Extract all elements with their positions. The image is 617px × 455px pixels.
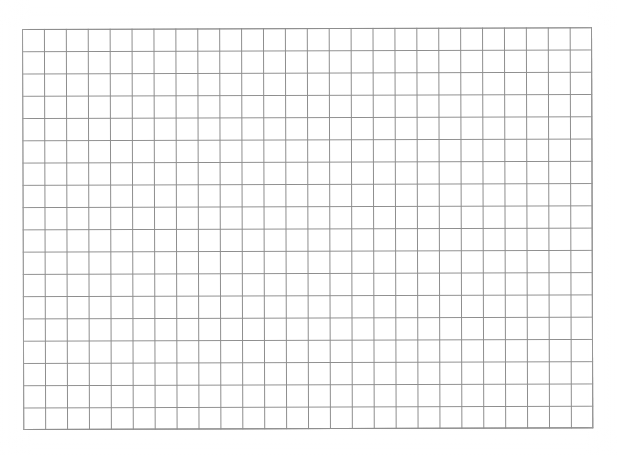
grid-paper-page: Blank quadrille grid paper Scanned sheet… xyxy=(0,0,617,455)
grid-lines xyxy=(22,27,593,430)
grid-area[interactable] xyxy=(22,27,593,430)
grid-right-edge-line xyxy=(591,27,593,428)
